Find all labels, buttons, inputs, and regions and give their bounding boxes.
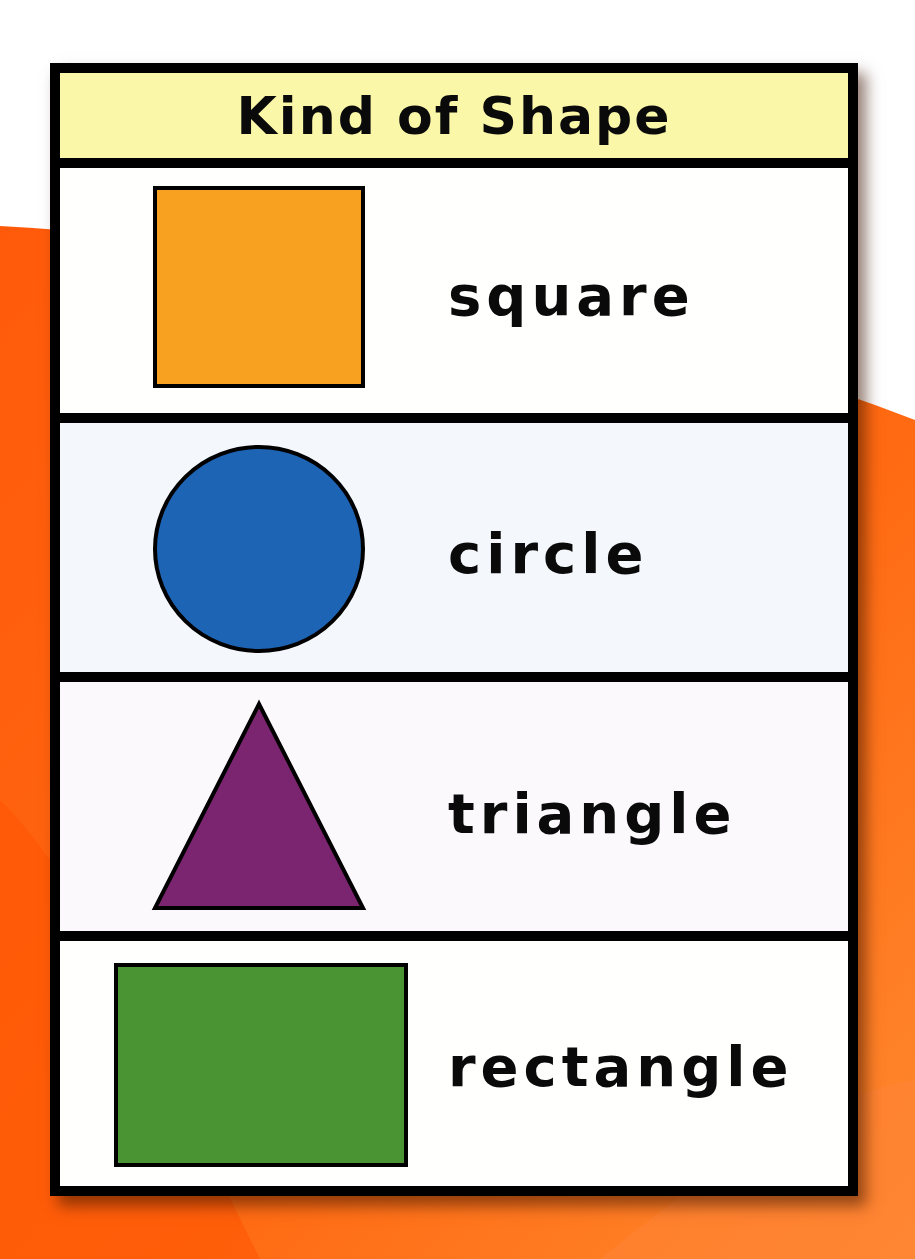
divider — [60, 672, 848, 682]
triangle-icon — [60, 682, 460, 931]
label-circle: circle — [448, 526, 648, 582]
row-square: square — [60, 168, 848, 413]
shape-chart: Kind of Shape square circle triangle rec… — [50, 63, 858, 1196]
row-circle: circle — [60, 423, 848, 672]
row-triangle: triangle — [60, 682, 848, 931]
square-icon — [60, 168, 460, 413]
chart-title: Kind of Shape — [237, 90, 672, 142]
label-square: square — [448, 268, 695, 324]
row-rectangle: rectangle — [60, 941, 848, 1186]
divider — [60, 931, 848, 941]
rectangle-icon — [60, 941, 460, 1186]
label-rectangle: rectangle — [448, 1039, 793, 1095]
divider — [60, 413, 848, 423]
divider — [60, 158, 848, 168]
label-triangle: triangle — [448, 786, 737, 842]
circle-icon — [60, 423, 460, 672]
chart-header: Kind of Shape — [60, 73, 848, 158]
